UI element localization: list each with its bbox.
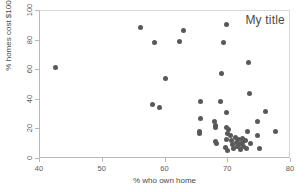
x-axis-tick [39, 158, 40, 162]
y-axis-tick [35, 128, 39, 129]
chart-title: My title [245, 13, 285, 27]
data-points-layer [40, 11, 289, 157]
data-point [198, 116, 203, 121]
data-point [198, 99, 203, 104]
data-point [213, 125, 218, 130]
x-axis-tick [227, 158, 228, 162]
y-axis-tick-label: 60 [25, 62, 34, 76]
data-point [225, 148, 230, 153]
data-point [244, 146, 249, 151]
data-point [157, 105, 162, 110]
y-axis-tick-label: 40 [25, 92, 34, 106]
data-point [163, 76, 168, 81]
scatter-chart-figure: My title 4050607080 020406080100 % who o… [0, 0, 305, 192]
data-point [248, 141, 253, 146]
data-point [219, 71, 224, 76]
data-point [177, 39, 182, 44]
data-point [214, 141, 219, 146]
y-axis-tick [35, 10, 39, 11]
data-point [197, 131, 202, 136]
y-axis-tick [35, 69, 39, 70]
data-point [257, 146, 262, 151]
data-point [224, 22, 229, 27]
x-axis-tick [102, 158, 103, 162]
data-point [224, 110, 229, 115]
data-point [53, 65, 58, 70]
y-axis-label: % homes cost $100K+ [4, 0, 13, 91]
data-point [255, 119, 260, 124]
y-axis-tick-label: 80 [25, 33, 34, 47]
data-point [247, 91, 252, 96]
data-point [273, 129, 278, 134]
x-axis-label: % who own home [39, 176, 290, 185]
x-axis-tick-label: 60 [160, 164, 168, 173]
data-point [218, 99, 223, 104]
y-axis-tick-label: 0 [25, 151, 34, 165]
y-axis-tick-label: 20 [25, 121, 34, 135]
data-point [263, 109, 268, 114]
data-point [245, 129, 250, 134]
data-point [152, 40, 157, 45]
data-point [181, 28, 186, 33]
x-axis-tick-label: 70 [223, 164, 231, 173]
x-axis-tick [290, 158, 291, 162]
x-axis-tick [165, 158, 166, 162]
data-point [221, 40, 226, 45]
x-axis-tick-label: 40 [35, 164, 43, 173]
y-axis-tick [35, 99, 39, 100]
x-axis-tick-label: 80 [286, 164, 294, 173]
data-point [246, 60, 251, 65]
y-axis-tick-label: 100 [25, 3, 34, 17]
x-axis-tick-label: 50 [98, 164, 106, 173]
data-point [138, 25, 143, 30]
y-axis-tick [35, 158, 39, 159]
y-axis-tick [35, 40, 39, 41]
data-point [255, 133, 260, 138]
plot-area: My title [39, 10, 290, 158]
data-point [150, 102, 155, 107]
